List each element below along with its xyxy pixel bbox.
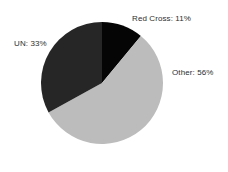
pie-chart-graphic [0,0,228,172]
pie-label-un: UN: 33% [14,39,47,49]
pie-label-other: Other: 56% [172,68,213,78]
pie-label-red-cross: Red Cross: 11% [132,14,191,24]
pie-chart: Red Cross: 11% Other: 56% UN: 33% [0,0,228,172]
